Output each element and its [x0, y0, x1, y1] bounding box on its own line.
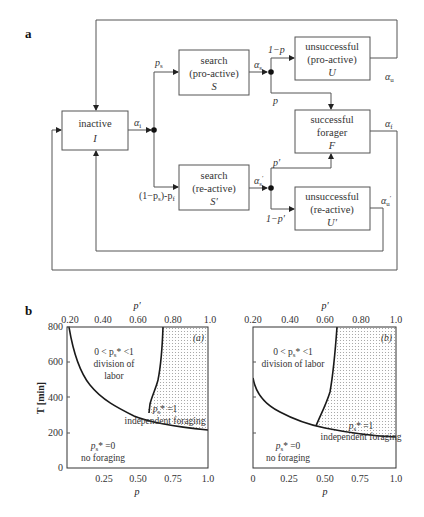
- svg-text:no foraging: no foraging: [266, 453, 310, 463]
- plot-tag: (a): [193, 333, 204, 344]
- box-label: search: [201, 170, 229, 181]
- panel-b-label: b: [25, 303, 32, 318]
- box-label: inactive: [78, 118, 112, 129]
- box-symbol: U′: [327, 217, 338, 228]
- box-search-pro-active: search (pro-active) S: [179, 50, 249, 95]
- junction-dot: [268, 185, 274, 191]
- plot-tag: (b): [381, 333, 392, 344]
- x-axis-label: p: [322, 486, 328, 497]
- svg-text:independent foraging: independent foraging: [321, 432, 402, 442]
- label-alpha-i: αi: [134, 117, 141, 130]
- label-alpha-s: αs: [254, 59, 262, 72]
- x-axis-label: p: [134, 486, 140, 497]
- edge-to-search-re: [154, 130, 178, 187]
- box-symbol: S′: [210, 196, 218, 207]
- label-one-minus-ps-pf: (1−ps)-pf: [139, 190, 175, 203]
- svg-text:independent foraging: independent foraging: [125, 416, 206, 426]
- y-axis-label: T [min]: [35, 382, 46, 414]
- box-label: unsuccessful: [305, 41, 359, 52]
- svg-text:0.20: 0.20: [244, 314, 262, 325]
- label-p: p: [272, 95, 278, 106]
- svg-text:0.40: 0.40: [281, 314, 299, 325]
- box-label: (pro-active): [189, 68, 239, 80]
- box-label: (pro-active): [307, 54, 357, 66]
- edge-to-unsuccessful-pro: [271, 58, 294, 72]
- label-one-minus-p-prime: 1−p′: [266, 213, 286, 224]
- figure: a inactive I: [0, 0, 424, 517]
- svg-text:division of labor: division of labor: [262, 359, 326, 369]
- svg-text:0.80: 0.80: [352, 314, 370, 325]
- svg-text:0.50: 0.50: [316, 473, 334, 484]
- svg-text:200: 200: [48, 427, 63, 438]
- box-label: successful: [310, 114, 353, 125]
- state-diagram: inactive I search (pro-active) S unsucce…: [52, 20, 397, 270]
- box-label: (re-active): [192, 183, 236, 195]
- region-no-foraging-label: ps* =0: [275, 441, 301, 453]
- label-alpha-u-prime: αu′: [381, 194, 392, 208]
- svg-text:0.75: 0.75: [164, 473, 182, 484]
- svg-text:0.75: 0.75: [351, 473, 369, 484]
- x-axis-bottom: 0.25 0.50 0.75 1.0 p: [95, 473, 214, 497]
- svg-text:0: 0: [58, 462, 63, 473]
- label-p-s: ps: [154, 57, 163, 70]
- svg-text:1.0: 1.0: [390, 473, 403, 484]
- x-axis-bottom: 0 0.25 0.50 0.75 1.0 p: [251, 473, 403, 497]
- label-alpha-f: αf: [385, 118, 393, 131]
- svg-text:0.80: 0.80: [164, 314, 182, 325]
- svg-text:0.20: 0.20: [61, 314, 79, 325]
- svg-text:0.60: 0.60: [316, 314, 334, 325]
- svg-text:1.0: 1.0: [202, 473, 215, 484]
- box-unsuccessful-re-active: unsuccessful (re-active) U′: [295, 187, 370, 230]
- svg-text:1.0: 1.0: [390, 314, 403, 325]
- region-no-foraging-label: ps* =0: [90, 441, 116, 453]
- box-label: unsuccessful: [305, 191, 359, 202]
- svg-text:400: 400: [48, 392, 63, 403]
- svg-text:no foraging: no foraging: [81, 453, 125, 463]
- svg-text:0.60: 0.60: [129, 314, 147, 325]
- svg-text:labor: labor: [104, 371, 124, 381]
- junction-dot: [268, 69, 274, 75]
- box-successful-forager: successful forager F: [295, 110, 370, 153]
- box-symbol: F: [328, 140, 336, 151]
- svg-text:600: 600: [48, 356, 63, 367]
- svg-text:0: 0: [251, 473, 256, 484]
- y-axis: 0 200 400 600 800 T [min]: [35, 321, 70, 473]
- label-alpha-s-prime: αs′: [254, 174, 264, 188]
- junction-dot: [151, 127, 157, 133]
- box-label: search: [201, 55, 229, 66]
- svg-text:0.25: 0.25: [95, 473, 113, 484]
- edge-to-unsuccessful-re: [271, 188, 294, 209]
- x-axis-top: 0.20 0.40 0.60 0.80 1.0 p′: [61, 300, 216, 325]
- label-p-prime: p′: [272, 157, 281, 168]
- label-one-minus-p: 1−p: [268, 44, 285, 55]
- svg-text:0.25: 0.25: [280, 473, 298, 484]
- svg-text:0.40: 0.40: [94, 314, 112, 325]
- box-symbol: I: [92, 133, 97, 144]
- box-label: forager: [317, 127, 348, 138]
- box-label: (re-active): [310, 204, 354, 216]
- box-unsuccessful-pro-active: unsuccessful (pro-active) U: [295, 37, 370, 80]
- region-division-label: 0 < ps* <1: [94, 347, 134, 359]
- plot-b: 0 0.25 0.50 0.75 1.0 p 0.20 0.40 0.60 0.…: [244, 300, 402, 497]
- edge-to-search-pro: [154, 72, 178, 130]
- region-division-label: 0 < ps* <1: [273, 347, 313, 359]
- svg-text:division of: division of: [94, 359, 136, 369]
- panel-a-label: a: [25, 26, 32, 41]
- svg-text:0.50: 0.50: [129, 473, 147, 484]
- box-inactive: inactive I: [62, 111, 128, 150]
- x2-axis-label: p′: [132, 300, 141, 311]
- box-search-re-active: search (re-active) S′: [179, 165, 249, 210]
- x2-axis-label: p′: [320, 300, 329, 311]
- box-symbol: S: [211, 81, 217, 92]
- svg-text:1.0: 1.0: [204, 314, 217, 325]
- plot-a: 0 200 400 600 800 T [min] 0.25 0.50 0.75…: [35, 300, 216, 497]
- x-axis-top: 0.20 0.40 0.60 0.80 1.0 p′: [244, 300, 402, 325]
- label-alpha-u: αu: [385, 71, 394, 84]
